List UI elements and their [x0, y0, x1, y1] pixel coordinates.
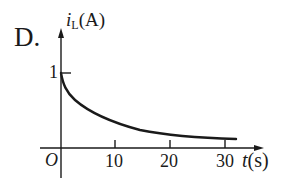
- chart-plot: [0, 0, 283, 196]
- x-axis-arrow-icon: [254, 145, 264, 151]
- y-axis-arrow-icon: [58, 28, 64, 38]
- decay-curve: [61, 73, 236, 139]
